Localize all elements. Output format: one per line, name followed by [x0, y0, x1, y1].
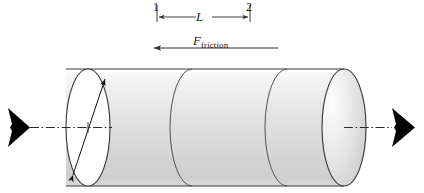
left-force-arrow	[8, 108, 30, 147]
right-force-arrow	[392, 108, 415, 147]
length-label: L	[196, 10, 203, 23]
station-2-label: 2	[246, 1, 252, 13]
figure-canvas: 1 2 L Ffriction	[0, 0, 424, 193]
friction-force-subscript: friction	[201, 40, 228, 50]
length-dimension-group	[157, 5, 250, 22]
cylinder-friction-diagram	[0, 0, 424, 193]
station-1-label: 1	[153, 1, 159, 13]
friction-force-symbol: F	[193, 33, 201, 48]
friction-force-label: Ffriction	[193, 34, 228, 50]
